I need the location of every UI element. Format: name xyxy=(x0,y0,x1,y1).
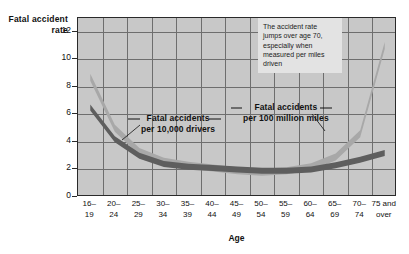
series-label-drivers-line1: Fatal accidents xyxy=(147,113,210,123)
x-axis-tick-label: 75 andover xyxy=(369,199,399,220)
x-axis: 16–1920–2425–2930–3435–3940–4445–4950–54… xyxy=(77,199,396,233)
series-band-per-10000-drivers xyxy=(90,105,384,174)
series-layer xyxy=(78,18,396,196)
x-axis-tick-label-line1: 16– xyxy=(83,199,96,208)
series-label-drivers-line2: per 10,000 drivers xyxy=(141,124,215,134)
fatal-accident-rate-chart: Fatal accident rate 024681012 The accide… xyxy=(0,0,409,254)
x-axis-tick-label-line1: 50– xyxy=(254,199,267,208)
x-axis-tick-label-line1: 35– xyxy=(181,199,194,208)
plot-area xyxy=(77,17,396,196)
x-axis-tick-label-line1: 55– xyxy=(279,199,292,208)
x-axis-tick-label-line1: 75 and xyxy=(371,199,395,208)
x-axis-tick-label-line1: 65– xyxy=(328,199,341,208)
y-axis-tick-label: 4 xyxy=(49,135,71,145)
x-axis-tick-label-line2: over xyxy=(369,210,399,221)
callout-line1: The accident rate xyxy=(263,23,317,30)
y-axis-tick-label: 2 xyxy=(49,162,71,172)
y-axis-tick-label: 0 xyxy=(49,190,71,200)
series-label-miles-line1: Fatal accidents xyxy=(254,102,317,112)
series-label-per-100-million-miles: Fatal accidents per 100 million miles xyxy=(243,102,329,124)
x-axis-tick-label-line1: 45– xyxy=(230,199,243,208)
x-axis-tick-label-line1: 30– xyxy=(156,199,169,208)
callout-line4: measured per miles xyxy=(263,51,324,58)
annotation-callout-age-70: The accident rate jumps over age 70, esp… xyxy=(258,18,342,73)
x-axis-tick-label-line1: 60– xyxy=(303,199,316,208)
callout-line5: driven xyxy=(263,60,282,67)
y-axis-tick-label: 8 xyxy=(49,80,71,90)
y-axis-tick-label: 6 xyxy=(49,107,71,117)
callout-line2: jumps over age xyxy=(263,32,311,39)
x-axis-tick-label-line1: 70– xyxy=(353,199,366,208)
x-axis-tick-label-line1: 40– xyxy=(205,199,218,208)
y-axis-title-line1: Fatal accident xyxy=(9,14,69,24)
x-axis-tick-label-line1: 25– xyxy=(132,199,145,208)
x-axis-tick-label-line1: 20– xyxy=(107,199,120,208)
y-axis-tick-label: 12 xyxy=(49,25,71,35)
series-label-miles-line2: per 100 million miles xyxy=(243,113,329,123)
series-label-per-10000-drivers: Fatal accidents per 10,000 drivers xyxy=(141,113,215,135)
y-axis-tick-mark xyxy=(72,196,77,197)
x-axis-title: Age xyxy=(77,233,396,243)
y-axis-tick-label: 10 xyxy=(49,52,71,62)
